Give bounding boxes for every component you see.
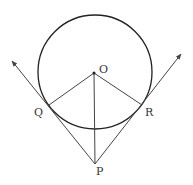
label-P: P [96, 165, 104, 178]
segment-OP [94, 73, 95, 164]
radius-OQ [49, 73, 94, 105]
label-R: R [145, 106, 154, 119]
center-point [93, 72, 96, 75]
label-Q: Q [34, 106, 43, 119]
label-O: O [99, 63, 108, 76]
tangent-line-left [12, 61, 95, 164]
radius-OR [94, 73, 142, 105]
geometry-diagram: O Q R P [0, 0, 193, 185]
